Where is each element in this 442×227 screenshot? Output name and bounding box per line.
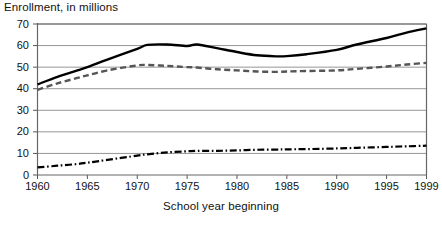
x-axis-label: School year beginning [0, 200, 442, 212]
plot-area [0, 0, 442, 227]
enrollment-line-chart: Enrollment, in millions 010203040506070 … [0, 0, 442, 227]
x-tick-label: 1980 [214, 181, 260, 192]
y-tick-label: 50 [1, 62, 29, 73]
y-tick-marks [33, 24, 427, 179]
x-tick-label: 1965 [64, 181, 110, 192]
data-series-group [38, 28, 427, 167]
y-tick-label: 0 [1, 170, 29, 181]
x-tick-label: 1999 [404, 181, 442, 192]
x-tick-label: 1960 [15, 181, 61, 192]
y-tick-label: 30 [1, 105, 29, 116]
y-tick-label: 40 [1, 83, 29, 94]
y-tick-label: 10 [1, 148, 29, 159]
gridlines [38, 24, 427, 153]
y-tick-label: 60 [1, 40, 29, 51]
x-tick-label: 1970 [114, 181, 160, 192]
x-tick-label: 1985 [264, 181, 310, 192]
y-tick-label: 20 [1, 126, 29, 137]
x-tick-label: 1975 [164, 181, 210, 192]
x-tick-label: 1990 [314, 181, 360, 192]
y-tick-label: 70 [1, 19, 29, 30]
